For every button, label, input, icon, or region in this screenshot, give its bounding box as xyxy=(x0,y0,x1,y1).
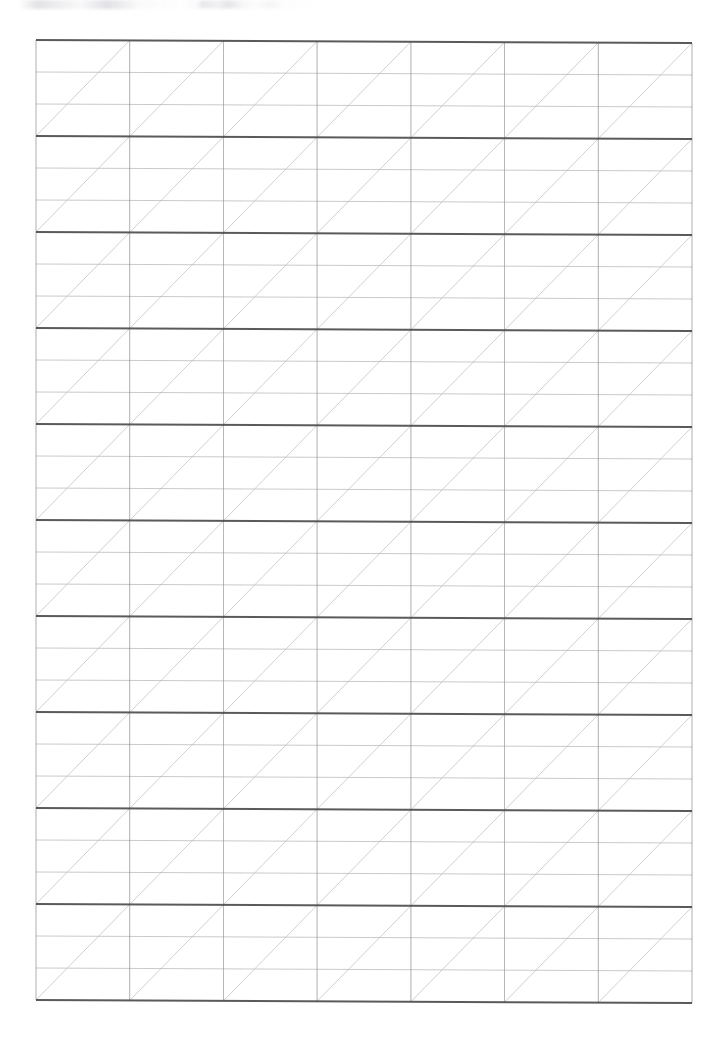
minor-horizontal-rule xyxy=(36,872,692,875)
cell-diagonal-line xyxy=(223,41,317,137)
cell-diagonal-line xyxy=(598,523,692,619)
major-horizontal-rule xyxy=(36,232,692,235)
cell-diagonal-line xyxy=(411,810,505,906)
cell-diagonal-line xyxy=(598,619,692,715)
minor-horizontal-rule xyxy=(36,552,692,555)
major-horizontal-rule xyxy=(36,136,692,139)
cell-diagonal-line xyxy=(223,329,317,425)
minor-horizontal-rule xyxy=(36,168,692,171)
cell-diagonal-line xyxy=(598,331,692,427)
cell-diagonal-line xyxy=(505,427,599,523)
cell-diagonal-line xyxy=(317,330,411,426)
minor-horizontal-rule xyxy=(36,456,692,459)
minor-horizontal-rule xyxy=(36,584,692,587)
cell-diagonal-line xyxy=(223,809,317,905)
major-horizontal-rule xyxy=(36,328,692,331)
cell-diagonal-line xyxy=(411,138,505,234)
cell-diagonal-line xyxy=(598,139,692,235)
cell-diagonal-line xyxy=(36,424,130,520)
cell-diagonal-line xyxy=(223,905,317,1001)
cell-diagonal-line xyxy=(130,617,224,713)
cell-diagonal-line xyxy=(130,905,224,1001)
cell-diagonal-line xyxy=(36,136,130,232)
cell-diagonal-line xyxy=(598,235,692,331)
cell-diagonal-line xyxy=(505,715,599,811)
cell-diagonal-line xyxy=(223,137,317,233)
cell-diagonal-line xyxy=(317,714,411,810)
minor-horizontal-rule xyxy=(36,296,692,299)
cell-diagonal-line xyxy=(411,42,505,138)
minor-horizontal-rule xyxy=(36,104,692,107)
minor-horizontal-rule xyxy=(36,200,692,203)
cell-diagonal-line xyxy=(36,808,130,904)
minor-horizontal-rule xyxy=(36,488,692,491)
ruled-diagonal-grid xyxy=(0,0,724,1048)
minor-horizontal-rule xyxy=(36,840,692,843)
cell-diagonal-line xyxy=(317,42,411,138)
minor-horizontal-rule xyxy=(36,264,692,267)
major-horizontal-rule xyxy=(36,1000,692,1003)
cell-diagonal-line xyxy=(130,521,224,617)
cell-diagonal-line xyxy=(36,520,130,616)
cell-diagonal-line xyxy=(36,328,130,424)
cell-diagonal-line xyxy=(223,617,317,713)
cell-diagonal-line xyxy=(505,43,599,139)
minor-horizontal-rule xyxy=(36,744,692,747)
cell-diagonal-line xyxy=(598,811,692,907)
cell-diagonal-line xyxy=(317,618,411,714)
cell-diagonal-line xyxy=(411,234,505,330)
cell-diagonal-line xyxy=(130,425,224,521)
cell-diagonal-line xyxy=(411,426,505,522)
cell-diagonal-line xyxy=(505,619,599,715)
cell-diagonal-line xyxy=(130,809,224,905)
minor-horizontal-rule xyxy=(36,648,692,651)
cell-diagonal-line xyxy=(317,138,411,234)
cell-diagonal-line xyxy=(317,906,411,1002)
cell-diagonal-line xyxy=(130,41,224,137)
cell-diagonal-line xyxy=(411,906,505,1002)
cell-diagonal-line xyxy=(223,713,317,809)
cell-diagonal-line xyxy=(317,810,411,906)
cell-diagonal-line xyxy=(130,329,224,425)
cell-diagonal-line xyxy=(505,331,599,427)
cell-diagonal-line xyxy=(505,811,599,907)
cell-diagonal-line xyxy=(505,523,599,619)
major-horizontal-lines-layer xyxy=(36,40,692,1003)
cell-diagonal-line xyxy=(598,715,692,811)
cell-diagonal-line xyxy=(411,714,505,810)
minor-horizontal-rule xyxy=(36,776,692,779)
cell-diagonal-line xyxy=(411,618,505,714)
cell-diagonal-line xyxy=(223,233,317,329)
cell-diagonal-line xyxy=(130,713,224,809)
cell-diagonal-line xyxy=(317,426,411,522)
cell-diagonal-line xyxy=(598,427,692,523)
cell-diagonal-line xyxy=(317,234,411,330)
worksheet-page: Ruled Grid Worksheet Sheet Blank ruled w… xyxy=(0,0,724,1048)
minor-horizontal-rule xyxy=(36,72,692,75)
major-horizontal-rule xyxy=(36,808,692,811)
minor-horizontal-rule xyxy=(36,680,692,683)
cell-diagonal-line xyxy=(36,904,130,1000)
major-horizontal-rule xyxy=(36,424,692,427)
cell-diagonal-line xyxy=(223,425,317,521)
cell-diagonal-line xyxy=(223,521,317,617)
cell-diagonal-line xyxy=(411,522,505,618)
cell-diagonal-line xyxy=(598,907,692,1003)
cell-diagonal-line xyxy=(36,712,130,808)
major-horizontal-rule xyxy=(36,616,692,619)
minor-horizontal-rule xyxy=(36,360,692,363)
minor-horizontal-rule xyxy=(36,936,692,939)
cell-diagonal-line xyxy=(36,40,130,136)
cell-diagonal-line xyxy=(36,232,130,328)
cell-diagonal-line xyxy=(36,616,130,712)
cell-diagonal-line xyxy=(505,139,599,235)
cell-diagonal-line xyxy=(130,233,224,329)
cell-diagonal-line xyxy=(411,330,505,426)
cell-diagonal-line xyxy=(317,522,411,618)
cell-diagonal-line xyxy=(505,907,599,1003)
cell-diagonal-line xyxy=(505,235,599,331)
major-horizontal-rule xyxy=(36,40,692,43)
cell-diagonal-line xyxy=(598,43,692,139)
major-horizontal-rule xyxy=(36,904,692,907)
minor-horizontal-rule xyxy=(36,968,692,971)
